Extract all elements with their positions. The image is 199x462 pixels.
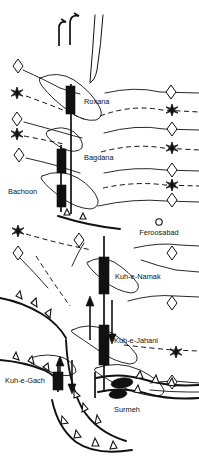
fold-plunge-hook-icon-2 xyxy=(70,16,79,45)
town-marker-circle-icon xyxy=(156,219,162,225)
thrust-tooth xyxy=(74,390,80,398)
thrust-tooth xyxy=(31,298,37,307)
salt-plug-roxana xyxy=(66,86,75,114)
map-canvas: Feroosabad xyxy=(0,0,199,462)
label-surmeh: Surmeh xyxy=(114,405,140,414)
thrust-tooth xyxy=(110,441,117,449)
syncline-axis-line xyxy=(101,146,199,152)
anticline-axis-line xyxy=(128,296,199,301)
upper-fault-trace-pair xyxy=(90,15,103,83)
anticline-axis-line xyxy=(134,244,199,248)
anticline-symbol xyxy=(14,148,24,162)
label-kuh-e-gach: Kuh-e-Gach xyxy=(5,376,45,385)
fold-axes-upper xyxy=(11,59,84,173)
anticline-symbol xyxy=(13,246,23,260)
syncline-symbol xyxy=(166,142,178,154)
anticline-symbol xyxy=(167,163,177,177)
thrust-tooth xyxy=(80,213,86,219)
fold-axes-upper-right xyxy=(98,85,199,207)
thrust-tooth xyxy=(92,438,99,446)
thrust-tooth xyxy=(152,375,159,383)
fold-axes-lower-right xyxy=(124,244,199,389)
salt-dome-surmeh-1 xyxy=(110,377,133,390)
anticline-symbol xyxy=(167,296,177,310)
anticline-symbol xyxy=(167,122,177,136)
thrust-tooth xyxy=(74,430,81,438)
thrust-tooth xyxy=(13,352,19,360)
label-roxana: Roxana xyxy=(84,97,110,106)
syncline-symbol xyxy=(11,128,23,140)
syncline-axis-line xyxy=(36,256,70,306)
anticline-axis-line xyxy=(24,122,82,138)
salt-plug-kuh-e-namak xyxy=(99,257,109,294)
label-bachoon: Bachoon xyxy=(8,187,37,196)
syncline-symbol xyxy=(12,225,24,237)
syncline-symbol xyxy=(170,346,182,358)
thrust-fault-upper xyxy=(58,209,120,229)
fold-axes-lower xyxy=(12,225,92,306)
anticline-symbol xyxy=(13,59,23,73)
fold-plunge-symbols xyxy=(59,13,79,46)
syncline-axis-line xyxy=(24,136,64,144)
anticline-symbol xyxy=(166,85,176,99)
anticline-axis-line xyxy=(104,169,199,173)
anticline-axis-line xyxy=(26,158,80,173)
thrust-tooth xyxy=(64,209,70,215)
syncline-axis-line xyxy=(124,345,199,351)
anticline-axis-line xyxy=(20,258,48,288)
anticline-symbol xyxy=(167,193,177,207)
thrust-fault-lower-left-1 xyxy=(0,291,66,338)
label-kuh-e-namak: Kuh-e-Namak xyxy=(115,272,161,281)
anticline-axis-line xyxy=(104,127,199,133)
syncline-symbol xyxy=(166,179,178,191)
label-kuh-e-jahani: Kuh-e-Jahani xyxy=(114,336,158,345)
thrust-tooth xyxy=(61,416,68,424)
thrust-tooth xyxy=(16,291,22,299)
anticline-axis-line xyxy=(105,89,199,93)
syncline-axis-line xyxy=(100,108,199,116)
thrust-tooth xyxy=(136,371,143,378)
geology-map-figure: Feroosabad xyxy=(0,0,199,462)
anticline-axis-line xyxy=(98,200,199,206)
thrust-tooth xyxy=(134,385,141,393)
town-label-feroosabad: Feroosabad xyxy=(139,228,178,237)
syncline-symbol xyxy=(11,87,23,99)
main-strike-slip-fault-lower xyxy=(95,236,109,398)
anticline-symbol xyxy=(12,112,22,126)
fold-plunge-hook-icon-1 xyxy=(59,22,66,46)
label-bagdana: Bagdana xyxy=(84,153,114,162)
anticline-symbol xyxy=(167,246,177,260)
thrust-tooth xyxy=(95,415,101,424)
syncline-axis-line xyxy=(103,184,199,188)
salt-plug-kuh-e-jahani xyxy=(99,325,109,365)
thrust-tooth xyxy=(82,403,88,412)
town-feroosabad: Feroosabad xyxy=(139,219,178,237)
